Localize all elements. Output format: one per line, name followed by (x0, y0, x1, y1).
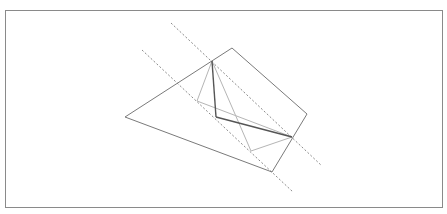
dark-segment-2 (216, 117, 292, 137)
dashed-line-1 (171, 23, 322, 166)
geometry-diagram (0, 0, 447, 214)
dashed-line-2 (142, 50, 293, 192)
light-construction-lines (197, 61, 292, 151)
light-segment-3 (212, 61, 251, 151)
light-segment-1 (197, 61, 212, 101)
light-segment-2 (197, 101, 292, 137)
